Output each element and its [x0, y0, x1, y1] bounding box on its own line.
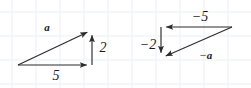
vector-canvas: [0, 0, 251, 88]
negative-component-x-label: −5: [192, 10, 208, 24]
component-y-label: 2: [100, 41, 107, 55]
negative-component-y-label: −2: [140, 38, 156, 52]
vector-a-label: a: [44, 22, 50, 33]
vector-a-glyph: a: [207, 49, 213, 61]
positive-vector-triangle-vector-a-arrow: [18, 32, 87, 65]
minus-sign-glyph: −: [200, 48, 207, 62]
component-x-label: 5: [53, 69, 60, 83]
negative-vector-a-label: −a: [200, 49, 212, 61]
vector-diagram-figure: a 5 2 −5 −2 −a: [0, 0, 251, 88]
